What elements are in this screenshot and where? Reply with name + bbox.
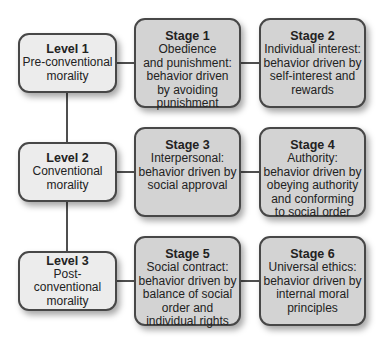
level-3-title: Level 3 — [46, 254, 88, 268]
level-2-box: Level 2 Conventional morality — [18, 142, 117, 202]
connector-stage3-stage4 — [240, 171, 260, 173]
stage-6-description: Universal ethics: behavior driven by int… — [263, 261, 361, 315]
level-1-box: Level 1 Pre-conventional morality — [18, 33, 117, 93]
stage-2-box: Stage 2 Individual interest: behavior dr… — [259, 18, 366, 108]
connector-level2-stage3 — [116, 171, 135, 173]
level-3-description: Post-conventional morality — [20, 268, 115, 309]
moral-development-diagram: Level 1 Pre-conventional morality Level … — [0, 0, 386, 345]
stage-1-description: Obedience and punishment: behavior drive… — [143, 43, 232, 111]
level-3-box: Level 3 Post-conventional morality — [18, 251, 117, 311]
stage-1-title: Stage 1 — [165, 29, 209, 43]
stage-5-description: Social contract: behavior driven by bala… — [138, 261, 236, 329]
connector-stage5-stage6 — [240, 280, 260, 282]
stage-6-box: Stage 6 Universal ethics: behavior drive… — [259, 236, 366, 326]
stage-5-title: Stage 5 — [165, 247, 209, 261]
level-2-description: Conventional morality — [32, 165, 102, 192]
connector-stage1-stage2 — [240, 62, 260, 64]
level-2-title: Level 2 — [46, 151, 88, 165]
stage-6-title: Stage 6 — [290, 247, 334, 261]
stage-4-description: Authority: behavior driven by obeying au… — [263, 152, 361, 220]
stage-1-box: Stage 1 Obedience and punishment: behavi… — [134, 18, 241, 108]
connector-level3-stage5 — [116, 280, 135, 282]
stage-5-box: Stage 5 Social contract: behavior driven… — [134, 236, 241, 326]
stage-4-box: Stage 4 Authority: behavior driven by ob… — [259, 127, 366, 217]
level-1-description: Pre-conventional morality — [22, 56, 112, 83]
stage-2-title: Stage 2 — [290, 29, 334, 43]
stage-4-title: Stage 4 — [290, 138, 334, 152]
stage-3-description: Interpersonal: behavior driven by social… — [138, 152, 236, 193]
stage-3-box: Stage 3 Interpersonal: behavior driven b… — [134, 127, 241, 217]
level-1-title: Level 1 — [46, 42, 88, 56]
stage-3-title: Stage 3 — [165, 138, 209, 152]
stage-2-description: Individual interest: behavior driven by … — [263, 43, 361, 97]
connector-level1-stage1 — [116, 62, 135, 64]
